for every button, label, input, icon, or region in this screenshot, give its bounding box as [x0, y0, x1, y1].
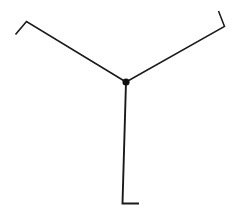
center-node [122, 78, 129, 85]
diagram-canvas [0, 0, 240, 213]
diagram-background [0, 0, 240, 213]
y-junction-diagram [0, 0, 240, 213]
